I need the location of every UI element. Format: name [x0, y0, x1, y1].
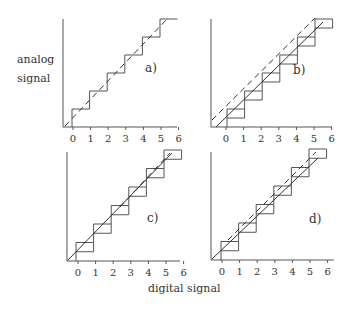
panel-label: b) [293, 63, 305, 77]
x-tick-label: 5 [307, 266, 313, 277]
x-tick-label: 5 [311, 133, 317, 144]
solid-reference-line [216, 22, 323, 127]
panel-a: 0123456a) [63, 18, 182, 144]
x-axis-label-digital-signal: digital signal [148, 282, 221, 295]
quantization-figure: analog signal digital signal 0123456a) 0… [0, 0, 353, 310]
x-tick-label: 6 [328, 133, 334, 144]
panel-label: d) [309, 212, 321, 226]
x-tick-label: 6 [180, 267, 186, 278]
panel-label: c) [147, 211, 158, 225]
dashed-reference-line [228, 152, 316, 240]
x-tick-label: 3 [123, 133, 129, 144]
staircase-quantized-signal [76, 150, 182, 261]
x-tick-label: 2 [110, 267, 116, 278]
panel-c: 0123456c) [67, 150, 187, 278]
x-tick-label: 2 [258, 133, 264, 144]
x-tick-label: 2 [254, 266, 260, 277]
x-tick-label: 6 [175, 133, 181, 144]
staircase-quantized-signal [72, 19, 178, 127]
solid-reference-line [212, 158, 318, 259]
panel-b: 0123456b) [211, 18, 335, 144]
x-tick-label: 0 [70, 133, 76, 144]
x-tick-label: 4 [140, 133, 146, 144]
x-tick-label: 5 [163, 267, 169, 278]
x-tick-label: 1 [240, 133, 246, 144]
staircase-quantized-signal [221, 149, 327, 260]
dashed-reference-line [120, 153, 170, 207]
x-tick-label: 5 [158, 133, 164, 144]
x-tick-label: 3 [272, 266, 278, 277]
panel-label: a) [145, 61, 157, 75]
x-tick-label: 1 [87, 133, 93, 144]
x-tick-label: 0 [75, 267, 81, 278]
staircase-quantized-signal [227, 19, 333, 127]
x-tick-label: 3 [128, 267, 134, 278]
x-tick-label: 4 [145, 267, 151, 278]
x-tick-label: 3 [276, 133, 282, 144]
x-tick-label: 0 [219, 266, 225, 277]
panel-d: 0123456d) [211, 149, 334, 277]
x-tick-label: 6 [324, 266, 330, 277]
y-axis-label-signal: signal [17, 72, 51, 85]
axes [211, 152, 334, 260]
x-tick-label: 1 [236, 266, 242, 277]
x-tick-label: 1 [92, 267, 98, 278]
x-tick-label: 0 [223, 133, 229, 144]
y-axis-label-analog: analog [17, 53, 54, 66]
x-tick-label: 4 [293, 133, 299, 144]
x-tick-label: 4 [289, 266, 295, 277]
x-tick-label: 2 [105, 133, 111, 144]
